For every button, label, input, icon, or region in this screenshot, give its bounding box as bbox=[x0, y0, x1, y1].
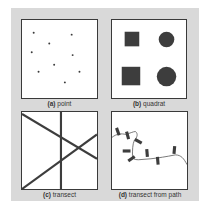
quadrat-shapes bbox=[112, 20, 186, 98]
panel-transect bbox=[21, 111, 98, 190]
caption-text: transect bbox=[53, 191, 76, 198]
point-dots bbox=[22, 20, 97, 98]
small-circle bbox=[159, 32, 175, 48]
caption-transect: (c) transect bbox=[21, 191, 98, 198]
large-square bbox=[122, 67, 141, 86]
caption-quadrat: (b) quadrat bbox=[111, 100, 187, 107]
caption-point: (a) point bbox=[21, 100, 98, 107]
panel-quadrat bbox=[111, 19, 187, 99]
small-square bbox=[125, 32, 140, 47]
path-with-markers bbox=[112, 112, 187, 189]
caption-letter: (a) bbox=[48, 100, 56, 107]
caption-letter: (c) bbox=[43, 191, 51, 198]
transect-lines bbox=[22, 112, 97, 189]
caption-text: point bbox=[57, 100, 71, 107]
large-circle bbox=[157, 67, 176, 86]
panel-point bbox=[21, 19, 98, 99]
caption-transect-from-path: (d) transect from path bbox=[105, 191, 195, 198]
panel-transect-from-path bbox=[111, 111, 188, 190]
caption-letter: (b) bbox=[133, 100, 141, 107]
caption-letter: (d) bbox=[119, 191, 127, 198]
caption-text: quadrat bbox=[143, 100, 165, 107]
caption-text: transect from path bbox=[129, 191, 181, 198]
